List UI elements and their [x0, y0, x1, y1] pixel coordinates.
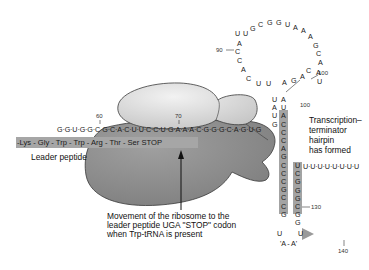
position-60: 60 [96, 113, 103, 119]
loop-nt: C [235, 48, 240, 55]
movement-caption-line3: when Trp-tRNA is present [107, 230, 202, 239]
trp-attenuation-diagram: 60 70 G·G·U·G·G·C·G·C·A·C·U·U·C·C·U·G·A·… [0, 0, 369, 270]
bottom-loop: 'A - A' [280, 240, 297, 247]
position-90: 90 [216, 47, 223, 53]
hairpin-label-line2: terminator [309, 126, 347, 135]
loop-nt: G [267, 19, 272, 26]
loop-nt: U [317, 78, 322, 85]
loop-nt: C [316, 50, 321, 57]
loop-nt: U [266, 80, 271, 87]
loop-nt: U [235, 30, 240, 37]
loop-nt: A [308, 33, 313, 40]
loop-nt: C [258, 21, 263, 28]
stem-far-left-column: U A U G [272, 96, 277, 129]
poly-u-tail: U·U·U·U·U·U·U·U [303, 163, 359, 170]
loop-nt: A [241, 66, 246, 73]
hairpin-label-line1: Transcription– [309, 116, 362, 125]
loop-nt: C [306, 67, 311, 74]
loop-nt: U [243, 30, 248, 37]
leader-sequence-part2: C·A·C·U·U·C·C·U·G·A·A·A·C·G·G·G·C·A·G·U·… [110, 125, 261, 134]
hairpin-label-line4: has formed [309, 146, 351, 155]
loop-nt: C [237, 57, 242, 64]
position-140: 140 [338, 248, 348, 254]
loop-nt: A [293, 24, 298, 31]
loop-nt: A [301, 27, 306, 34]
leader-sequence-part1: G·G·U·G·G·C·G· [57, 125, 110, 134]
leader-sequence: G·G·U·G·G·C·G·C·A·C·U·U·C·C·U·G·A·A·A·C·… [57, 126, 261, 133]
hairpin-label-line3: hairpin [309, 136, 334, 145]
position-130: 130 [311, 204, 321, 210]
loop-nt: G [250, 25, 255, 32]
position-100-stem: 100 [300, 102, 310, 108]
leader-peptide-sequence: -Lys - Gly - Trp - Trp - Arg - Thr - Ser… [17, 139, 162, 147]
loop-nt: G [276, 19, 281, 26]
stem-left-column: A U A C C C A G C C C G C C G [281, 96, 286, 219]
bottom-u-right: U [298, 230, 303, 237]
loop-nt: A [316, 69, 321, 76]
ribosome-small-subunit [118, 83, 257, 129]
loop-nt: U [256, 80, 261, 87]
leader-peptide-label: Leader peptide [31, 153, 87, 162]
loop-nt: A [300, 73, 305, 80]
loop-nt: A [318, 59, 323, 66]
loop-nt: C [246, 75, 251, 82]
loop-nt: G [291, 77, 296, 84]
bottom-u-left: U [277, 230, 282, 237]
position-70: 70 [175, 113, 182, 119]
loop-nt: A [282, 79, 287, 86]
loop-nt: G [313, 42, 318, 49]
loop-nt: U [285, 21, 290, 28]
stem-right-column: U C G G G C G G [295, 162, 300, 228]
